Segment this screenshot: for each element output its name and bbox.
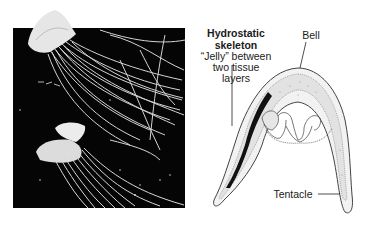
tentacle-label: Tentacle (270, 188, 316, 200)
hydrostatic-skeleton-label: Hydrostatic (201, 27, 271, 39)
bell-label: Bell (296, 29, 326, 41)
jelly-label-line3: layers (196, 72, 276, 84)
